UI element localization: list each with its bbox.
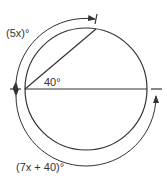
tick-top xyxy=(95,14,97,24)
arc-top-label: (5x)° xyxy=(6,27,29,39)
angle-label: 40° xyxy=(44,76,61,88)
circle-diagram: (5x)° 40° (7x + 40)° xyxy=(0,0,167,182)
arc-bottom-label: (7x + 40)° xyxy=(16,161,64,173)
arc-arrow-bottom xyxy=(16,96,156,166)
